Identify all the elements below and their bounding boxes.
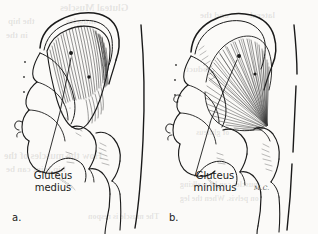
panel-a-muscle-label: Gluteus medius <box>18 170 88 194</box>
figure-container: Gluteal Musclesthe hipmusclesand thelate… <box>0 0 318 234</box>
artist-signature: M.C. <box>254 184 270 191</box>
gluteus-minimus-drawing <box>159 0 318 234</box>
panel-b-label-line2: minimus <box>194 182 237 193</box>
gluteus-medius-drawing <box>0 0 159 234</box>
panel-a-label-line2: medius <box>35 182 72 193</box>
panel-b-label-line1: Gluteus <box>196 170 235 181</box>
panel-a-label-line1: Gluteus <box>34 170 73 181</box>
panel-b-letter: b. <box>169 212 179 223</box>
panel-b-muscle-label: Gluteus minimus <box>175 170 255 194</box>
panel-a-gluteus-medius: Gluteus medius a. <box>0 0 159 234</box>
panel-a-letter: a. <box>12 212 21 223</box>
panel-b-gluteus-minimus: Gluteus minimus M.C. b. <box>159 0 318 234</box>
